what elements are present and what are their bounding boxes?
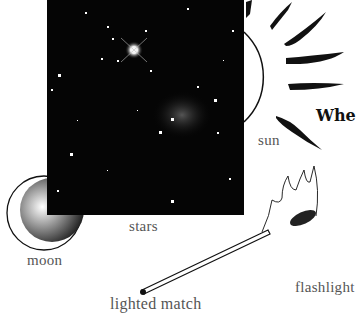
flashlight-label: flashlight [295, 279, 355, 296]
stars-label: stars [129, 218, 158, 235]
moon-label: moon [27, 252, 62, 269]
match-label: lighted match [110, 295, 201, 313]
section-heading-fragment: Whe [316, 106, 356, 125]
sun-label: sun [258, 132, 280, 149]
